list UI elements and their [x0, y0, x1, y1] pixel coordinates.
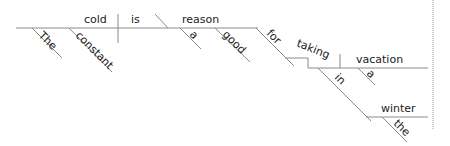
sentence-diagram: cold is reason The constant a good for t…	[0, 0, 450, 146]
word-for: for	[264, 27, 284, 47]
word-verb: is	[131, 13, 140, 26]
word-subject: cold	[84, 13, 107, 26]
word-complement: reason	[182, 13, 219, 26]
word-the: The	[35, 28, 60, 53]
complement-slash	[155, 14, 168, 28]
word-good: good	[220, 28, 249, 57]
word-winter: winter	[381, 102, 416, 115]
word-constant: constant	[73, 29, 116, 72]
word-a: a	[187, 28, 201, 42]
word-vacation: vacation	[356, 53, 403, 66]
word-a-2: a	[364, 67, 378, 81]
word-the-2: the	[391, 117, 413, 139]
